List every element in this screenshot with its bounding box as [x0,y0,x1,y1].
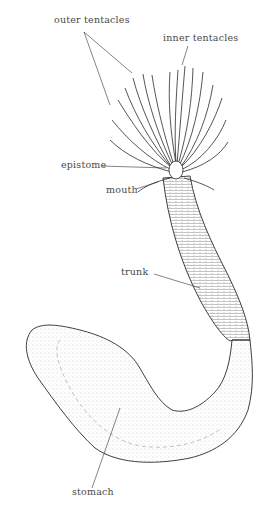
label-mouth: mouth [106,184,138,195]
label-stomach: stomach [72,486,114,497]
label-epistome: epistome [61,159,106,170]
mouth-region [169,161,183,179]
label-outer-tentacles: outer tentacles [54,14,130,25]
stomach-body [26,325,252,462]
worm-illustration [0,0,272,518]
label-inner-tentacles: inner tentacles [163,32,238,43]
trunk-body [163,176,250,341]
label-trunk: trunk [121,266,148,277]
